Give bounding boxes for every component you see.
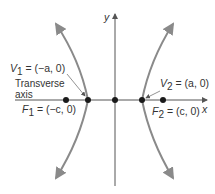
- center-point: [112, 97, 118, 103]
- transverse-axis-label-line1: Transverse: [15, 79, 65, 89]
- x-axis-label: x: [202, 104, 207, 115]
- transverse-axis-label-line2: axis: [15, 90, 33, 100]
- focus-right-point: [160, 97, 166, 103]
- y-axis-label: y: [104, 12, 109, 23]
- vertex-left-point: [85, 97, 91, 103]
- focus-right-label: F2 = (c, 0): [152, 106, 200, 120]
- vertex-right-pointer: [146, 91, 160, 98]
- vertex-left-label: V1 = (−a, 0): [10, 63, 65, 77]
- vertex-right-point: [139, 97, 145, 103]
- focus-left-label: F1 = (−c, 0): [22, 104, 76, 118]
- vertex-right-label: V2 = (a, 0): [160, 78, 209, 92]
